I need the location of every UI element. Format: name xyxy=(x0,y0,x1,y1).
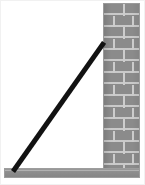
brick-joint xyxy=(113,62,115,74)
brick-joint xyxy=(123,27,125,39)
brick-joint xyxy=(113,131,115,143)
brick-joint xyxy=(123,119,125,131)
brick-joint xyxy=(132,131,134,143)
brick-joint xyxy=(123,96,125,108)
brick-joint xyxy=(132,39,134,51)
brick-joint xyxy=(123,50,125,62)
leaning-ladder xyxy=(11,41,106,173)
brick-course xyxy=(104,131,139,143)
brick-joint xyxy=(113,39,115,51)
brick-course xyxy=(104,39,139,51)
floor-highlight xyxy=(5,170,139,171)
brick-joint xyxy=(123,142,125,154)
brick-wall xyxy=(103,3,140,170)
brick-course xyxy=(104,85,139,97)
brick-course xyxy=(104,108,139,120)
brick-course xyxy=(104,16,139,28)
brick-joint xyxy=(113,154,115,166)
brick-course xyxy=(104,50,139,62)
brick-course xyxy=(104,4,139,16)
brick-joint xyxy=(132,62,134,74)
brick-joint xyxy=(132,16,134,28)
brick-joint xyxy=(132,108,134,120)
brick-joint xyxy=(113,16,115,28)
brick-course xyxy=(104,27,139,39)
brick-course xyxy=(104,73,139,85)
brick-course xyxy=(104,96,139,108)
brick-joint xyxy=(113,85,115,97)
diagram-canvas xyxy=(0,0,145,185)
brick-course xyxy=(104,142,139,154)
brick-joint xyxy=(132,85,134,97)
brick-joint xyxy=(123,73,125,85)
brick-course xyxy=(104,119,139,131)
brick-joint xyxy=(123,4,125,16)
brick-course xyxy=(104,154,139,166)
floor-slab xyxy=(4,168,140,178)
brick-joint xyxy=(113,108,115,120)
brick-joint xyxy=(132,154,134,166)
brick-course xyxy=(104,62,139,74)
